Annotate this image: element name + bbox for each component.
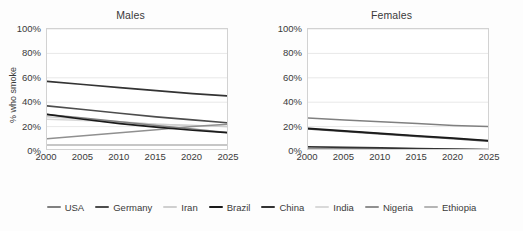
- legend-label: Ethiopia: [442, 202, 476, 213]
- x-axis-tick-label: 2010: [369, 151, 390, 162]
- legend-label: USA: [65, 202, 85, 213]
- chart-svg: [308, 29, 489, 150]
- series-line: [308, 118, 489, 127]
- legend-item[interactable]: Ethiopia: [424, 202, 476, 213]
- chart-panels: Males % who smoke 0%20%40%60%80%100% 200…: [0, 0, 523, 190]
- legend-item[interactable]: Nigeria: [365, 202, 413, 213]
- legend-label: China: [279, 202, 304, 213]
- x-axis-tick-label: 2025: [478, 151, 499, 162]
- legend-swatch-icon: [163, 206, 177, 208]
- legend-label: India: [333, 202, 354, 213]
- legend-swatch-icon: [95, 206, 109, 208]
- legend-item[interactable]: Germany: [95, 202, 152, 213]
- series-line: [47, 81, 228, 96]
- legend-swatch-icon: [365, 206, 379, 208]
- chart-svg: [47, 29, 228, 150]
- legend-label: Iran: [181, 202, 197, 213]
- plot-area-males: [46, 28, 228, 150]
- x-axis-tick-label: 2020: [181, 151, 202, 162]
- legend-swatch-icon: [424, 206, 438, 208]
- x-axis-tick-label: 2025: [217, 151, 238, 162]
- x-axis-tick-label: 2000: [35, 151, 56, 162]
- series-line: [47, 114, 228, 132]
- legend-swatch-icon: [315, 206, 329, 208]
- y-axis-tick-label: 80%: [1, 47, 41, 58]
- series-line: [308, 149, 489, 150]
- y-axis-tick-label: 60%: [1, 71, 41, 82]
- panel-males: Males % who smoke 0%20%40%60%80%100% 200…: [0, 0, 261, 190]
- x-axis-tick-label: 2020: [442, 151, 463, 162]
- y-axis-tick-label: 40%: [262, 96, 302, 107]
- y-axis-tick-label: 100%: [262, 23, 302, 34]
- y-axis-tick-label: 60%: [262, 71, 302, 82]
- y-axis-tick-label: 80%: [262, 47, 302, 58]
- legend-swatch-icon: [261, 206, 275, 208]
- plot-area-females: [307, 28, 489, 150]
- x-axis-tick-label: 2010: [108, 151, 129, 162]
- legend-item[interactable]: Iran: [163, 202, 197, 213]
- y-axis-tick-label: 100%: [1, 23, 41, 34]
- x-axis-tick-label: 2000: [296, 151, 317, 162]
- chart-legend: USAGermanyIranBrazilChinaIndiaNigeriaEth…: [0, 192, 523, 222]
- legend-item[interactable]: India: [315, 202, 354, 213]
- legend-item[interactable]: USA: [47, 202, 85, 213]
- x-axis-tick-label: 2005: [72, 151, 93, 162]
- legend-swatch-icon: [209, 206, 223, 208]
- legend-label: Germany: [113, 202, 152, 213]
- y-axis-tick-label: 20%: [262, 120, 302, 131]
- x-axis-tick-label: 2015: [145, 151, 166, 162]
- panel-females: Females 0%20%40%60%80%100% 2000200520102…: [261, 0, 522, 190]
- legend-label: Nigeria: [383, 202, 413, 213]
- legend-swatch-icon: [47, 206, 61, 208]
- chart-figure: Males % who smoke 0%20%40%60%80%100% 200…: [0, 0, 523, 231]
- y-axis-tick-label: 20%: [1, 120, 41, 131]
- x-axis-tick-label: 2015: [406, 151, 427, 162]
- x-axis-tick-label: 2005: [333, 151, 354, 162]
- legend-label: Brazil: [227, 202, 251, 213]
- series-line: [308, 128, 489, 140]
- y-axis-tick-label: 40%: [1, 96, 41, 107]
- legend-item[interactable]: China: [261, 202, 304, 213]
- legend-item[interactable]: Brazil: [209, 202, 251, 213]
